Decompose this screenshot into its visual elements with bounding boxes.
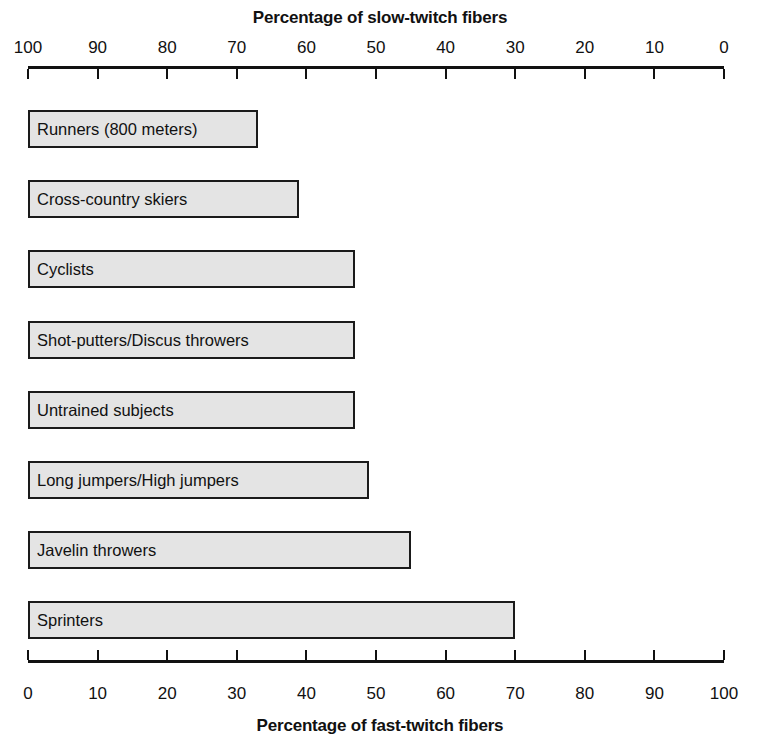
bar-label: Shot-putters/Discus throwers	[37, 331, 249, 348]
bar-row: Long jumpers/High jumpers	[28, 461, 369, 499]
bar-label: Untrained subjects	[37, 402, 174, 419]
bottom-tick-label-100: 100	[710, 684, 738, 704]
bottom-axis-title: Percentage of fast-twitch fibers	[0, 716, 760, 736]
bottom-axis-tick-labels: 0102030405060708090100	[0, 684, 760, 706]
bar-row: Shot-putters/Discus throwers	[28, 321, 355, 359]
bottom-axis-line	[28, 660, 724, 663]
bottom-tick-mark-50	[375, 650, 377, 660]
bottom-tick-mark-10	[97, 650, 99, 660]
bar-label: Cross-country skiers	[37, 191, 187, 208]
bottom-tick-label-20: 20	[158, 684, 177, 704]
bottom-tick-mark-70	[514, 650, 516, 660]
plot-area: Runners (800 meters)Cross-country skiers…	[0, 0, 760, 748]
bar-row: Sprinters	[28, 601, 515, 639]
slow-fast-twitch-fiber-bar-chart: Percentage of slow-twitch fibers 1009080…	[0, 0, 760, 748]
bar-row: Cyclists	[28, 250, 355, 288]
bottom-tick-label-0: 0	[23, 684, 32, 704]
bottom-tick-label-10: 10	[88, 684, 107, 704]
bar-row: Cross-country skiers	[28, 180, 299, 218]
bottom-tick-mark-80	[584, 650, 586, 660]
bottom-tick-label-40: 40	[297, 684, 316, 704]
bar-row: Javelin throwers	[28, 531, 411, 569]
bottom-tick-mark-60	[445, 650, 447, 660]
bar-label: Long jumpers/High jumpers	[37, 472, 239, 489]
bar-label: Javelin throwers	[37, 542, 156, 559]
bottom-tick-mark-20	[166, 650, 168, 660]
bottom-tick-label-50: 50	[367, 684, 386, 704]
bottom-tick-label-90: 90	[645, 684, 664, 704]
bar-label: Cyclists	[37, 261, 94, 278]
bottom-tick-label-70: 70	[506, 684, 525, 704]
bottom-tick-mark-40	[305, 650, 307, 660]
bottom-tick-mark-0	[27, 650, 29, 660]
bar-row: Runners (800 meters)	[28, 110, 258, 148]
bottom-tick-label-80: 80	[575, 684, 594, 704]
bottom-tick-mark-100	[723, 650, 725, 660]
bottom-tick-label-60: 60	[436, 684, 455, 704]
bottom-tick-mark-90	[653, 650, 655, 660]
bottom-tick-mark-30	[236, 650, 238, 660]
bar-label: Sprinters	[37, 612, 103, 629]
bar-row: Untrained subjects	[28, 391, 355, 429]
bottom-tick-label-30: 30	[227, 684, 246, 704]
bar-label: Runners (800 meters)	[37, 121, 197, 138]
